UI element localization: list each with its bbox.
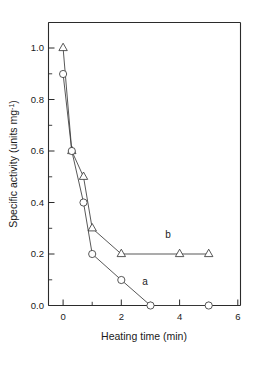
y-tick-label: 0.2 <box>31 248 44 259</box>
data-point-marker-triangle <box>117 249 125 256</box>
data-point-marker-circle <box>147 302 154 309</box>
data-point-marker-circle <box>205 302 212 309</box>
y-tick-label: 1.0 <box>31 42 44 53</box>
series-b-group: b <box>59 43 213 256</box>
y-axis-tick-labels: 0.0 0.2 0.4 0.6 0.8 1.0 <box>31 42 44 311</box>
series-a-markers <box>60 70 213 309</box>
x-tick-label: 4 <box>177 311 182 322</box>
chart-plot-area: 0.0 0.2 0.4 0.6 0.8 1.0 0 2 4 6 Heating … <box>0 0 254 367</box>
series-b-line <box>63 48 209 254</box>
y-axis-title-tail: ) <box>7 100 19 104</box>
svg-text:Specific activity (units mg-1): Specific activity (units mg-1) <box>7 100 19 228</box>
data-point-marker-triangle <box>59 43 67 50</box>
x-tick-label: 2 <box>119 311 124 322</box>
data-point-marker-triangle <box>175 249 183 256</box>
data-point-marker-circle <box>80 199 87 206</box>
series-a-group: a <box>60 70 213 309</box>
data-point-marker-triangle <box>88 224 96 231</box>
series-label-a: a <box>142 276 148 287</box>
series-b-markers <box>59 43 213 256</box>
series-a-line <box>63 74 209 306</box>
series-label-b: b <box>165 229 171 240</box>
x-tick-label: 6 <box>235 311 240 322</box>
x-axis-tick-labels: 0 2 4 6 <box>60 311 240 322</box>
data-point-marker-circle <box>60 70 67 77</box>
x-tick-label: 0 <box>60 311 65 322</box>
data-point-marker-circle <box>68 147 75 154</box>
data-point-marker-triangle <box>79 172 87 179</box>
data-point-marker-circle <box>118 276 125 283</box>
y-axis-title-main: Specific activity (units mg <box>7 110 19 228</box>
y-tick-label: 0.6 <box>31 145 44 156</box>
y-tick-label: 0.0 <box>31 300 44 311</box>
y-tick-label: 0.8 <box>31 94 44 105</box>
y-axis-title: Specific activity (units mg-1) <box>7 100 19 228</box>
data-point-marker-triangle <box>205 249 213 256</box>
data-point-marker-circle <box>89 250 96 257</box>
y-tick-label: 0.4 <box>31 197 44 208</box>
x-axis-title: Heating time (min) <box>101 330 187 342</box>
chart-figure: 0.0 0.2 0.4 0.6 0.8 1.0 0 2 4 6 Heating … <box>0 0 254 367</box>
